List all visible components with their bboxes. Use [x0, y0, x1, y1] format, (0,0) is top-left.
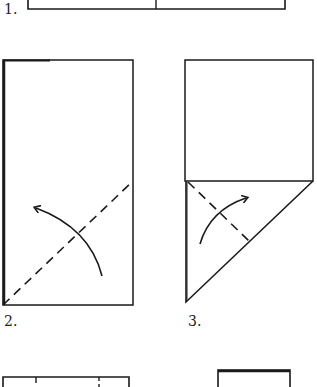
- step-1-figure: [28, 0, 285, 9]
- step-4-figure-partial: [3, 377, 129, 387]
- fold-line-dashed: [3, 181, 133, 305]
- diagram-drawing: [0, 0, 317, 387]
- step-5-figure-partial: [218, 370, 290, 387]
- step-3-figure: [185, 60, 313, 302]
- step-2-figure: [3, 60, 133, 305]
- origami-diagram: 1. 2. 3.: [0, 0, 317, 387]
- fold-line-dashed: [188, 182, 249, 241]
- fold-arrow-icon: [200, 198, 246, 244]
